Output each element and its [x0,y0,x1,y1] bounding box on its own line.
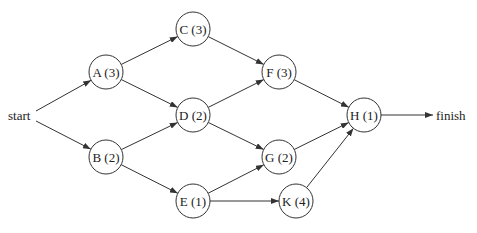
edge-D-F [208,80,264,108]
node-A: A (3) [89,55,123,89]
edge-B-D [121,122,177,149]
node-label: C (3) [179,22,206,37]
edge-start-A [36,80,91,111]
node-label: G (2) [265,150,293,165]
node-G: G (2) [262,140,296,174]
edge-F-H [294,80,349,108]
node-H: H (1) [347,98,381,132]
edge-K-H [307,128,354,187]
edge-B-E [121,165,178,194]
edge-start-B [36,121,91,149]
node-K: K (4) [279,184,313,218]
edge-A-C [121,37,178,65]
node-label: H (1) [350,108,378,123]
node-C: C (3) [176,12,210,46]
node-F: F (3) [262,55,296,89]
node-label: B (2) [92,150,119,165]
node-label: E (1) [180,194,206,209]
activity-network-diagram: A (3)B (2)C (3)D (2)E (1)F (3)G (2)K (4)… [0,0,477,233]
edge-A-D [121,80,178,108]
node-label: K (4) [282,194,310,209]
edge-D-G [208,122,263,149]
edge-G-H [294,123,349,150]
edge-E-G [208,165,264,194]
node-label: F (3) [266,65,292,80]
node-D: D (2) [176,98,210,132]
node-B: B (2) [89,140,123,174]
start-label: start [8,108,31,123]
nodes: A (3)B (2)C (3)D (2)E (1)F (3)G (2)K (4)… [89,12,381,218]
node-E: E (1) [176,184,210,218]
finish-label: finish [436,108,466,123]
node-label: A (3) [92,65,119,80]
node-label: D (2) [179,108,207,123]
edge-C-F [208,37,264,65]
